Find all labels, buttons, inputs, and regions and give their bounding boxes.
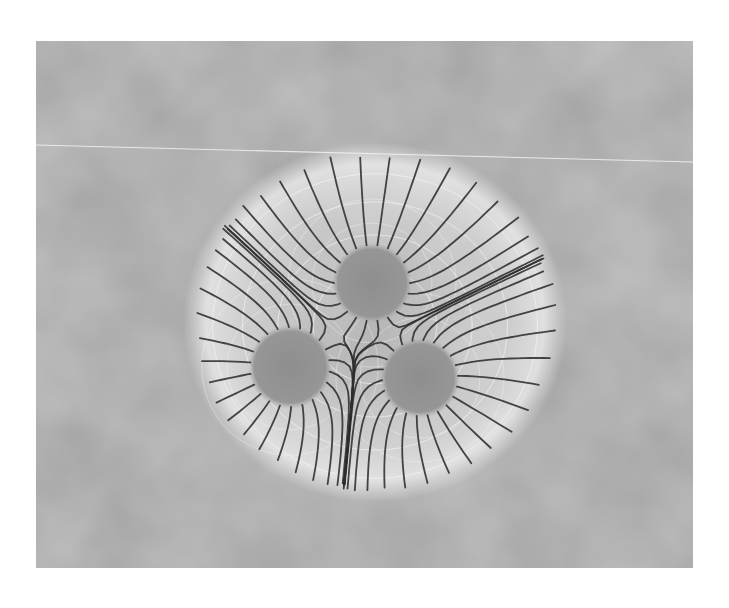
- charge-region-lower-left: [248, 325, 332, 409]
- field-line-photograph: [0, 0, 729, 608]
- charge-region-upper: [332, 243, 412, 323]
